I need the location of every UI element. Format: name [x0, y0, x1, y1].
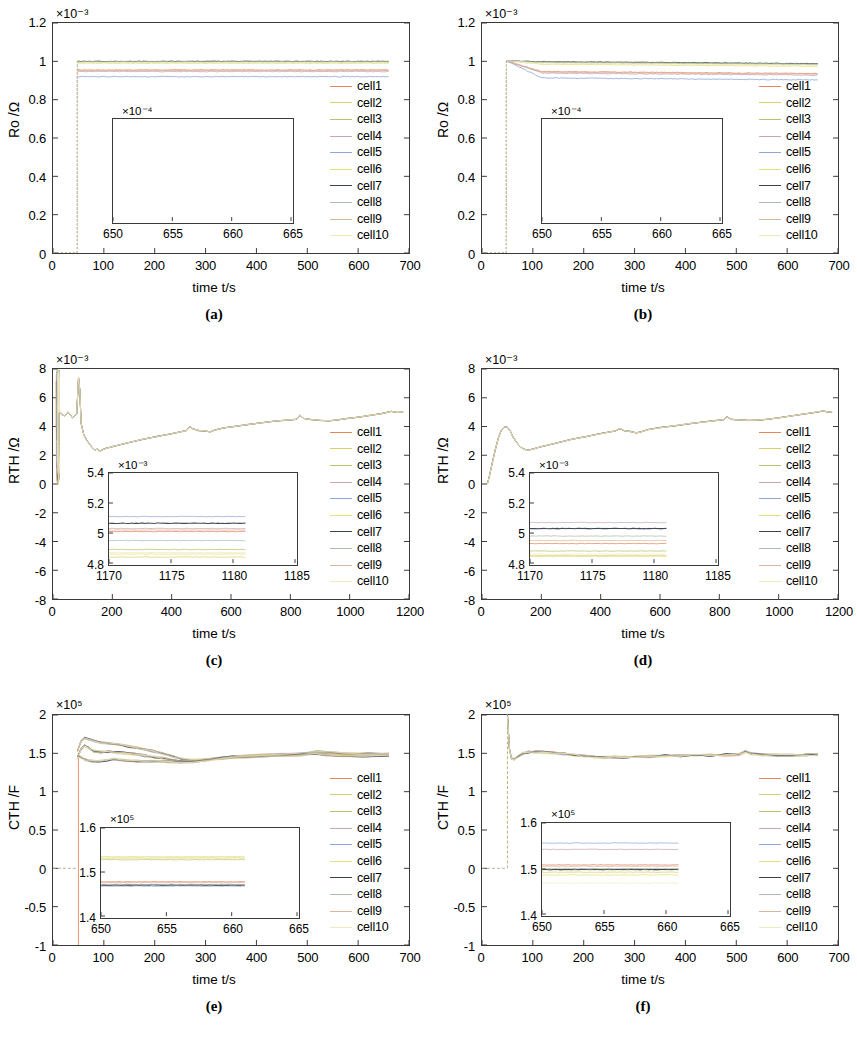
legend-label: cell4	[357, 822, 382, 835]
y-tick-label: 0.4	[458, 169, 475, 184]
legend-item-cell6[interactable]: cell6	[330, 507, 388, 524]
legend-item-cell10[interactable]: cell10	[330, 227, 388, 244]
legend-item-cell4[interactable]: cell4	[330, 820, 388, 837]
legend-item-cell7[interactable]: cell7	[330, 870, 388, 887]
legend-item-cell9[interactable]: cell9	[330, 557, 388, 574]
legend-item-cell5[interactable]: cell5	[759, 836, 817, 853]
legend-item-cell2[interactable]: cell2	[759, 95, 817, 112]
subfigure-label-e: (e)	[0, 998, 428, 1015]
legend-item-cell10[interactable]: cell10	[330, 573, 388, 590]
legend-item-cell1[interactable]: cell1	[759, 770, 817, 787]
inset-y-tick-label: 5.4	[495, 466, 525, 480]
legend-item-cell9[interactable]: cell9	[759, 557, 817, 574]
legend-item-cell1[interactable]: cell1	[330, 78, 388, 95]
y-axis-label-d: RTH /Ω	[435, 437, 451, 484]
legend-item-cell10[interactable]: cell10	[330, 919, 388, 936]
legend-item-cell8[interactable]: cell8	[759, 886, 817, 903]
legend-item-cell10[interactable]: cell10	[759, 573, 817, 590]
legend-item-cell7[interactable]: cell7	[330, 178, 388, 195]
legend-f: cell1cell2cell3cell4cell5cell6cell7cell8…	[759, 770, 817, 936]
inset-a	[112, 118, 294, 224]
legend-item-cell2[interactable]: cell2	[330, 441, 388, 458]
legend-a: cell1cell2cell3cell4cell5cell6cell7cell8…	[330, 78, 388, 244]
legend-item-cell3[interactable]: cell3	[759, 803, 817, 820]
inset-f	[541, 822, 731, 917]
legend-item-cell3[interactable]: cell3	[330, 457, 388, 474]
legend-item-cell2[interactable]: cell2	[330, 787, 388, 804]
legend-label: cell9	[786, 559, 811, 572]
legend-item-cell5[interactable]: cell5	[759, 144, 817, 161]
legend-item-cell8[interactable]: cell8	[759, 540, 817, 557]
legend-item-cell8[interactable]: cell8	[330, 540, 388, 557]
legend-line-swatch	[759, 169, 781, 170]
legend-item-cell3[interactable]: cell3	[759, 111, 817, 128]
legend-item-cell10[interactable]: cell10	[759, 919, 817, 936]
legend-item-cell8[interactable]: cell8	[330, 194, 388, 211]
legend-item-cell2[interactable]: cell2	[759, 787, 817, 804]
legend-item-cell3[interactable]: cell3	[759, 457, 817, 474]
inset-y-exponent-f: ×10⁵	[551, 808, 575, 820]
legend-item-cell4[interactable]: cell4	[759, 474, 817, 491]
legend-item-cell5[interactable]: cell5	[330, 490, 388, 507]
legend-item-cell9[interactable]: cell9	[759, 903, 817, 920]
inset-x-tick-label: 660	[223, 922, 243, 936]
inset-x-tick-label: 660	[223, 227, 243, 241]
legend-item-cell1[interactable]: cell1	[330, 770, 388, 787]
x-tick-label: 700	[399, 258, 420, 273]
legend-item-cell8[interactable]: cell8	[759, 194, 817, 211]
legend-item-cell5[interactable]: cell5	[759, 490, 817, 507]
legend-item-cell2[interactable]: cell2	[759, 441, 817, 458]
legend-item-cell1[interactable]: cell1	[759, 424, 817, 441]
legend-item-cell7[interactable]: cell7	[330, 524, 388, 541]
legend-item-cell10[interactable]: cell10	[759, 227, 817, 244]
legend-item-cell3[interactable]: cell3	[330, 111, 388, 128]
legend-item-cell6[interactable]: cell6	[330, 853, 388, 870]
y-tick-label: 0.2	[29, 208, 46, 223]
y-tick-label: -6	[464, 564, 475, 579]
inset-x-tick-label: 1175	[580, 569, 606, 583]
legend-item-cell8[interactable]: cell8	[330, 886, 388, 903]
legend-item-cell4[interactable]: cell4	[330, 128, 388, 145]
x-tick-label: 600	[649, 604, 670, 619]
legend-item-cell9[interactable]: cell9	[330, 903, 388, 920]
legend-item-cell1[interactable]: cell1	[330, 424, 388, 441]
legend-item-cell5[interactable]: cell5	[330, 836, 388, 853]
inset-x-tick-label: 665	[712, 227, 732, 241]
legend-item-cell6[interactable]: cell6	[759, 507, 817, 524]
inset-y-tick-label: 1.6	[507, 816, 537, 830]
legend-item-cell7[interactable]: cell7	[759, 178, 817, 195]
legend-item-cell4[interactable]: cell4	[330, 474, 388, 491]
x-tick-label: 100	[93, 258, 114, 273]
legend-line-swatch	[759, 531, 781, 532]
legend-item-cell7[interactable]: cell7	[759, 524, 817, 541]
legend-item-cell7[interactable]: cell7	[759, 870, 817, 887]
inset-y-exponent-e: ×10⁵	[110, 813, 134, 825]
y-tick-label: 0	[39, 861, 46, 876]
legend-item-cell9[interactable]: cell9	[759, 211, 817, 228]
y-axis-label-f: CTH /F	[435, 785, 451, 830]
legend-item-cell9[interactable]: cell9	[330, 211, 388, 228]
subfigure-label-f: (f)	[429, 998, 857, 1015]
legend-item-cell6[interactable]: cell6	[759, 853, 817, 870]
legend-line-swatch	[759, 911, 781, 912]
y-exponent-e: ×10⁵	[56, 698, 82, 712]
legend-item-cell1[interactable]: cell1	[759, 78, 817, 95]
inset-x-tick-label: 1180	[221, 569, 247, 583]
legend-line-swatch	[759, 102, 781, 103]
legend-item-cell4[interactable]: cell4	[759, 820, 817, 837]
legend-label: cell9	[786, 213, 811, 226]
x-tick-label: 200	[101, 604, 122, 619]
x-tick-label: 200	[573, 258, 594, 273]
legend-item-cell3[interactable]: cell3	[330, 803, 388, 820]
legend-line-swatch	[330, 432, 352, 433]
legend-item-cell5[interactable]: cell5	[330, 144, 388, 161]
legend-item-cell6[interactable]: cell6	[330, 161, 388, 178]
legend-line-swatch	[759, 927, 781, 928]
legend-item-cell6[interactable]: cell6	[759, 161, 817, 178]
y-tick-label: -4	[35, 535, 46, 550]
legend-line-swatch	[759, 136, 781, 137]
legend-line-swatch	[330, 119, 352, 120]
legend-item-cell4[interactable]: cell4	[759, 128, 817, 145]
legend-item-cell2[interactable]: cell2	[330, 95, 388, 112]
inset-x-tick-label: 660	[652, 227, 672, 241]
